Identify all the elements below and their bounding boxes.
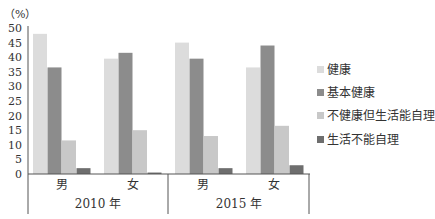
legend-label: 不健康但生活能自理: [327, 108, 435, 123]
bar: [204, 136, 218, 174]
bar-chart: （%） 05101520253035404550 男女2010 年男女2015 …: [0, 0, 435, 219]
y-tick-label: 15: [8, 124, 22, 137]
y-tick-label: 10: [8, 139, 22, 152]
bars: [33, 34, 304, 174]
bar: [219, 168, 233, 174]
y-tick-label: 45: [8, 37, 22, 50]
bar: [77, 168, 91, 174]
bar: [48, 67, 62, 174]
bar: [290, 165, 304, 174]
y-tick-label: 30: [8, 80, 22, 93]
y-tick-label: 0: [15, 168, 22, 181]
x-axis: 男女2010 年男女2015 年: [28, 174, 310, 214]
bar: [246, 67, 260, 174]
bar: [133, 130, 147, 174]
bar: [104, 59, 118, 174]
legend-label: 基本健康: [327, 85, 375, 100]
y-tick-label: 20: [8, 110, 22, 123]
y-tick-label: 40: [8, 51, 22, 64]
y-axis-unit-label: （%）: [4, 8, 36, 21]
x-group-label: 2010 年: [75, 197, 121, 211]
bar: [275, 126, 289, 174]
bar: [33, 34, 47, 174]
y-tick-label: 25: [8, 95, 22, 108]
bar: [190, 59, 204, 174]
x-group-label: 2015 年: [216, 197, 262, 211]
legend: 健康基本健康不健康但生活能自理生活不能自理: [317, 62, 435, 147]
x-category-label: 女: [127, 177, 139, 192]
y-tick-label: 35: [8, 66, 22, 79]
y-axis: 05101520253035404550: [8, 22, 28, 181]
bar: [175, 43, 189, 174]
bar: [119, 53, 133, 174]
legend-swatch: [317, 136, 324, 143]
legend-swatch: [317, 89, 324, 96]
x-category-label: 女: [268, 177, 280, 192]
legend-label: 生活不能自理: [327, 133, 399, 147]
legend-swatch: [317, 112, 324, 119]
bar: [261, 46, 275, 174]
y-tick-label: 50: [8, 22, 22, 35]
x-category-label: 男: [197, 178, 209, 192]
x-category-label: 男: [56, 178, 68, 192]
y-tick-label: 5: [15, 153, 22, 166]
legend-swatch: [317, 66, 324, 73]
legend-label: 健康: [327, 62, 351, 77]
bar: [62, 140, 76, 174]
